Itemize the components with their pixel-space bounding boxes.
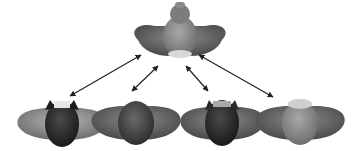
arrow-to-variant-2 bbox=[132, 66, 158, 91]
top-node-shape bbox=[134, 2, 225, 58]
arrow-to-variant-3 bbox=[186, 66, 208, 91]
arrow-to-variant-4 bbox=[199, 55, 273, 97]
variant-2-shape bbox=[91, 101, 180, 145]
arrows bbox=[70, 55, 273, 97]
arrow-to-variant-1 bbox=[70, 55, 141, 96]
variant-3-shape bbox=[180, 100, 264, 146]
variant-4-shape bbox=[255, 99, 344, 145]
diagram-canvas bbox=[0, 0, 357, 151]
